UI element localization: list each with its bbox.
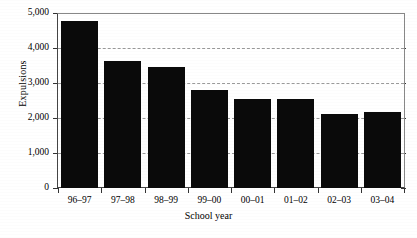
bar[interactable] xyxy=(364,112,401,188)
bar-slot xyxy=(58,14,101,188)
x-axis-tick xyxy=(231,188,232,193)
bar[interactable] xyxy=(191,90,228,188)
bar-slot xyxy=(361,14,404,188)
bar[interactable] xyxy=(148,67,185,188)
bar[interactable] xyxy=(104,61,141,188)
y-axis-tick-label: 5,000 xyxy=(3,8,49,18)
y-axis-tick-label: 2,000 xyxy=(3,113,49,123)
y-axis-tick-label: 4,000 xyxy=(3,43,49,53)
x-axis-tick xyxy=(188,188,189,193)
x-axis-tick xyxy=(145,188,146,193)
x-axis-tick xyxy=(58,188,59,193)
bar-group xyxy=(58,14,404,188)
x-axis-tick xyxy=(274,188,275,193)
x-axis-title: School year xyxy=(0,210,417,221)
bar[interactable] xyxy=(277,99,314,188)
y-axis-tick-label: 3,000 xyxy=(3,78,49,88)
bar-slot xyxy=(318,14,361,188)
bar-slot xyxy=(188,14,231,188)
bar-slot xyxy=(145,14,188,188)
y-axis-tick-label: 1,000 xyxy=(3,148,49,158)
x-axis-tick xyxy=(101,188,102,193)
x-axis-tick xyxy=(404,188,405,193)
bar-slot xyxy=(101,14,144,188)
y-axis-tick-label: 0 xyxy=(3,183,49,193)
bar[interactable] xyxy=(234,99,271,188)
bar-slot xyxy=(231,14,274,188)
expulsions-bar-chart: Expulsions 01,0002,0003,0004,0005,000 96… xyxy=(0,0,417,238)
x-axis-tick-label: 03–04 xyxy=(352,195,412,206)
x-axis-tick xyxy=(361,188,362,193)
bar[interactable] xyxy=(321,114,358,188)
bar-slot xyxy=(274,14,317,188)
x-axis-tick xyxy=(318,188,319,193)
bar[interactable] xyxy=(61,21,98,188)
